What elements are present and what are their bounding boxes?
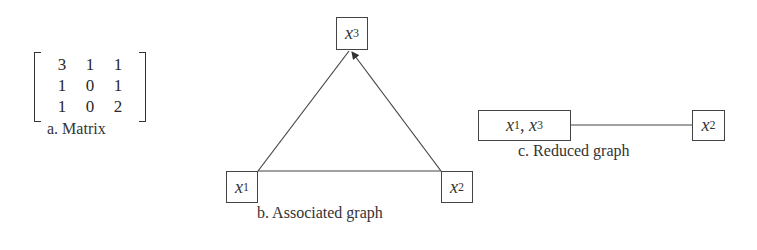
matrix-cell: 2 — [104, 96, 132, 117]
edge-x1-x3 — [258, 51, 349, 171]
node-var: x — [529, 115, 537, 136]
node-var: x — [506, 115, 514, 136]
matrix-cell: 1 — [104, 54, 132, 75]
node-x2: x2 — [441, 171, 473, 203]
matrix-cell: 1 — [48, 96, 76, 117]
node-x1-x3: x1, x3 — [478, 110, 571, 141]
matrix: 3 1 1 1 0 1 1 0 2 — [34, 52, 146, 120]
matrix-cell: 0 — [76, 96, 104, 117]
node-var: x — [450, 177, 458, 198]
matrix-cell: 1 — [48, 75, 76, 96]
node-x1: x1 — [226, 171, 258, 203]
right-bracket — [139, 52, 146, 122]
node-separator: , — [520, 115, 529, 136]
node-subscript: 3 — [353, 26, 359, 41]
caption-matrix: a. Matrix — [47, 120, 106, 138]
node-subscript: 1 — [243, 180, 249, 195]
node-subscript: 3 — [537, 118, 543, 133]
caption-associated-graph: b. Associated graph — [257, 204, 383, 222]
matrix-grid: 3 1 1 1 0 1 1 0 2 — [48, 54, 132, 117]
node-x2-reduced: x2 — [692, 110, 725, 141]
node-x3: x3 — [336, 17, 368, 50]
matrix-cell: 0 — [76, 75, 104, 96]
node-subscript: 2 — [458, 180, 464, 195]
matrix-cell: 1 — [76, 54, 104, 75]
node-var: x — [345, 23, 353, 44]
caption-reduced-graph: c. Reduced graph — [518, 142, 630, 160]
node-var: x — [702, 115, 710, 136]
node-subscript: 2 — [710, 118, 716, 133]
edge-x2-x3-arrow — [352, 52, 441, 171]
node-var: x — [235, 177, 243, 198]
matrix-cell: 3 — [48, 54, 76, 75]
left-bracket — [34, 52, 41, 122]
matrix-cell: 1 — [104, 75, 132, 96]
